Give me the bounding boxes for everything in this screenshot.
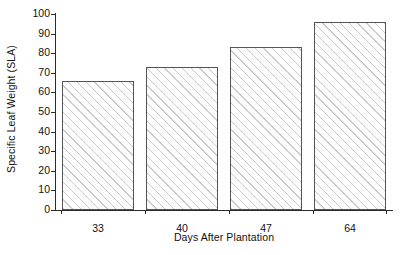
- y-axis-tick-mark: [51, 14, 55, 15]
- x-axis-tick-mark: [313, 210, 314, 214]
- y-axis-tick-label: 40: [38, 125, 50, 137]
- plot-area: 0102030405060708090100: [56, 14, 392, 210]
- y-axis-label: Specific Leaf Weight (SLA): [0, 0, 22, 218]
- y-axis-tick-label: 20: [38, 164, 50, 176]
- y-axis-tick-label: 90: [38, 27, 50, 39]
- bar-chart: Specific Leaf Weight (SLA) 0102030405060…: [0, 0, 406, 255]
- y-axis-tick-label: 100: [32, 7, 50, 19]
- bar: [314, 22, 386, 210]
- y-axis-tick-label: 70: [38, 66, 50, 78]
- y-axis-tick-label: 30: [38, 144, 50, 156]
- y-axis-tick-label: 60: [38, 85, 50, 97]
- bar: [230, 47, 302, 210]
- x-axis-tick-label: 64: [308, 222, 392, 234]
- x-axis-tick-label: 33: [56, 222, 140, 234]
- y-axis-tick-label: 10: [38, 183, 50, 195]
- y-axis-tick-mark: [51, 34, 55, 35]
- x-axis-line: [55, 210, 393, 211]
- y-axis-tick-mark: [51, 92, 55, 93]
- y-axis-label-text: Specific Leaf Weight (SLA): [5, 45, 17, 173]
- y-axis-tick-label: 0: [44, 203, 50, 215]
- bar: [146, 67, 218, 210]
- bar: [62, 81, 134, 210]
- y-axis-tick-mark: [51, 190, 55, 191]
- y-axis-tick-label: 50: [38, 105, 50, 117]
- y-axis-tick-mark: [51, 171, 55, 172]
- x-axis-tick-mark: [386, 210, 387, 214]
- y-axis-tick-mark: [51, 132, 55, 133]
- y-axis-tick-mark: [51, 53, 55, 54]
- x-axis-tick-mark: [229, 210, 230, 214]
- y-axis-tick-mark: [51, 73, 55, 74]
- x-axis-tick-label: 47: [224, 222, 308, 234]
- y-axis-tick-label: 80: [38, 46, 50, 58]
- x-axis-tick-label: 40: [140, 222, 224, 234]
- y-axis-tick-mark: [51, 151, 55, 152]
- x-axis-tick-mark: [145, 210, 146, 214]
- y-axis-tick-mark: [51, 112, 55, 113]
- y-axis-tick-mark: [51, 210, 55, 211]
- x-axis-tick-mark: [61, 210, 62, 214]
